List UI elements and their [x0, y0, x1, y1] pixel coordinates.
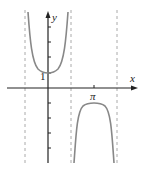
- y-axis-arrow-icon: [46, 11, 51, 18]
- secant-graph: y x π 1: [0, 0, 141, 170]
- x-tick-label-pi: π: [90, 90, 96, 102]
- x-axis-label: x: [129, 72, 135, 84]
- y-axis-label: y: [51, 11, 57, 23]
- asymptotes: [25, 10, 117, 163]
- sec-branch-lower: [74, 103, 114, 163]
- y-tick-label-one: 1: [40, 70, 46, 82]
- x-axis-arrow-icon: [131, 86, 138, 91]
